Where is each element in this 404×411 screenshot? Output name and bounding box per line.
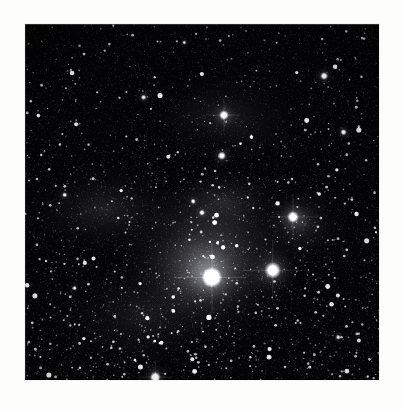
starfield-canvas — [25, 24, 379, 380]
page-canvas — [0, 0, 404, 411]
astronomical-starfield-image — [25, 24, 379, 380]
